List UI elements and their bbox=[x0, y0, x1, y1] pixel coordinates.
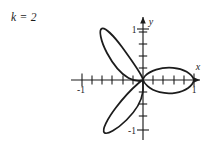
y-axis-label: y bbox=[148, 16, 154, 27]
y-tick-label-neg-one: -1 bbox=[128, 126, 136, 136]
figure-container: k = 2 bbox=[0, 0, 213, 147]
y-axis-arrow-icon bbox=[140, 17, 146, 24]
x-tick-label-pos-one: 1 bbox=[192, 85, 197, 95]
y-tick-label-pos-one: 1 bbox=[132, 25, 137, 35]
x-tick-label-neg-one: -1 bbox=[77, 85, 85, 95]
x-axis-label: x bbox=[195, 61, 201, 72]
rose-curve-plot: x y -1 1 1 -1 bbox=[0, 0, 213, 147]
